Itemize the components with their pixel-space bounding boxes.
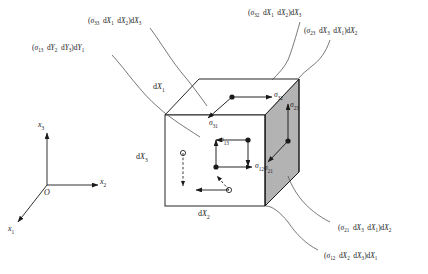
stress-label-sigma-21: σ21 <box>264 163 273 174</box>
axis-label-x2: x2 <box>100 177 106 188</box>
callout-sigma32-top: (σ32 dX1 dX2)dX3 <box>248 9 301 19</box>
figure-canvas: x3 x2 x1 O dX1 dX3 dX2 σ32 σ31 σ23 σ21 σ… <box>0 0 428 274</box>
axis-origin-label: O <box>44 188 50 197</box>
axis-label-x1: x1 <box>8 224 14 235</box>
callout-sigma12-bottom: (σ12 dX2 dX3)dX1 <box>324 252 377 262</box>
coordinate-axes <box>18 133 98 222</box>
edge-label-dX2: dX2 <box>198 209 210 220</box>
leader-sigma12-bottom <box>266 206 318 250</box>
leader-sigma33 <box>150 28 207 106</box>
stress-label-sigma-13: σ13 <box>220 135 229 146</box>
stress-label-sigma-32: σ32 <box>274 90 283 101</box>
callout-sigma21: (σ21 dX3 dX1)dX2 <box>338 224 391 234</box>
leader-sigma23 <box>299 40 330 78</box>
edge-label-dX1: dX1 <box>153 82 165 93</box>
axis-label-x3: x3 <box>38 120 44 131</box>
edge-label-dX3: dX3 <box>136 152 148 163</box>
callout-sigma13: (σ13 dY2 dY3)dY1 <box>32 44 84 54</box>
stress-label-sigma-23: σ23 <box>290 100 299 111</box>
axis-x1-arrow <box>18 185 47 222</box>
callout-sigma33: (σ33 dX1 dX2)dX3 <box>88 17 141 27</box>
callout-sigma23: (σ23 dX3 dX1)dX2 <box>304 27 357 37</box>
stress-label-sigma-31: σ31 <box>209 118 218 129</box>
stress-label-sigma-12: σ12 <box>255 161 264 172</box>
leader-sigma32-top <box>272 22 300 80</box>
leader-sigma21 <box>288 176 330 222</box>
cube-face-front <box>165 115 265 206</box>
